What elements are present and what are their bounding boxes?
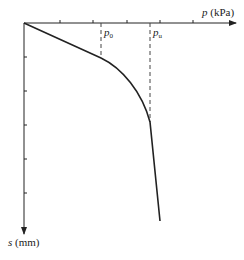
diagram-canvas [0, 0, 244, 260]
p0-subscript: 0 [110, 32, 114, 40]
y-axis-symbol: s [8, 236, 12, 248]
p0-label: p0 [104, 27, 113, 40]
x-axis-unit: (kPa) [210, 6, 234, 18]
p-s-curve [24, 23, 160, 221]
pu-label: pu [153, 27, 162, 40]
x-axis-symbol: p [202, 6, 208, 18]
y-axis-label: s (mm) [8, 237, 39, 248]
y-axis-unit: (mm) [15, 236, 39, 248]
load-settlement-diagram: p (kPa) p0 pu s (mm) [0, 0, 244, 260]
x-axis-label: p (kPa) [202, 7, 234, 18]
pu-subscript: u [159, 32, 163, 40]
